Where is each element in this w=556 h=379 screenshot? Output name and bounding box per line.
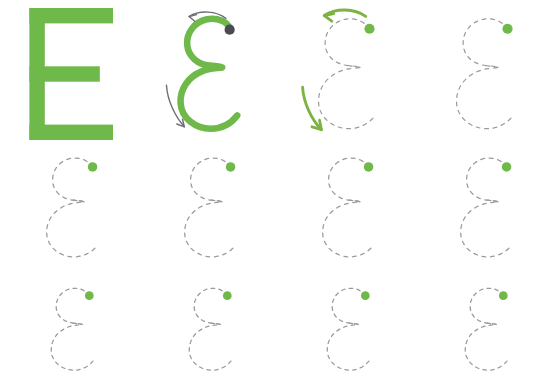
epsilon-join-tick	[487, 323, 496, 324]
epsilon-dashed-path	[319, 19, 376, 129]
cell-row2-practice-2[interactable]	[162, 150, 255, 262]
start-point-dot	[499, 291, 508, 300]
epsilon-stroke-path	[181, 19, 238, 129]
epsilon-dashed-path	[465, 288, 507, 370]
cell-row2-practice-4[interactable]	[438, 150, 531, 262]
start-point-dot	[502, 24, 512, 34]
epsilon-dashed-path	[189, 288, 231, 370]
epsilon-join-tick	[487, 200, 498, 202]
cell-row1-model-letter-stroke	[152, 8, 262, 140]
epsilon-dashed-guide	[310, 283, 384, 373]
epsilon-dashed-path	[323, 158, 374, 257]
cell-row3-practice-4[interactable]	[448, 283, 522, 373]
epsilon-join-tick	[211, 323, 220, 324]
capital-e-shape	[29, 8, 113, 140]
start-point-dot	[88, 162, 98, 172]
epsilon-dashed-guide-arrows	[290, 8, 400, 140]
epsilon-dashed-path	[461, 158, 512, 257]
arrow-top-head	[189, 15, 197, 22]
epsilon-dashed-guide	[438, 150, 531, 262]
start-point-dot	[364, 162, 374, 172]
e-top-bar	[29, 8, 113, 23]
epsilon-dashed-path	[457, 19, 514, 129]
epsilon-dashed-guide	[300, 150, 393, 262]
cell-row1-trace-guide-with-arrows[interactable]	[290, 8, 400, 140]
capital-e-glyph	[14, 8, 124, 140]
start-point-dot	[361, 291, 370, 300]
worksheet-row-3	[0, 283, 556, 375]
cell-row3-practice-2[interactable]	[172, 283, 246, 373]
epsilon-dashed-guide	[34, 283, 108, 373]
cell-row3-practice-3[interactable]	[310, 283, 384, 373]
epsilon-dashed-path	[47, 158, 98, 257]
epsilon-join-tick	[73, 323, 82, 324]
epsilon-join-tick	[73, 200, 84, 202]
start-point-dot	[364, 24, 374, 34]
epsilon-dashed-path	[185, 158, 236, 257]
arrow-top-head	[324, 14, 333, 22]
cell-row2-practice-1[interactable]	[24, 150, 117, 262]
start-point-dot	[85, 291, 94, 300]
e-middle-bar	[29, 66, 99, 81]
start-point-dot	[225, 25, 235, 35]
cell-row3-practice-1[interactable]	[34, 283, 108, 373]
epsilon-dashed-guide	[448, 283, 522, 373]
tracing-worksheet: Letter E Tracing Practice	[0, 0, 556, 379]
cell-row1-trace-guide-plain[interactable]	[428, 8, 538, 140]
epsilon-join-tick	[349, 323, 358, 324]
e-bottom-bar	[29, 125, 113, 140]
worksheet-row-2	[0, 150, 556, 264]
cell-row2-practice-3[interactable]	[300, 150, 393, 262]
arrow-bottom-shaft	[303, 87, 322, 129]
start-point-dot	[502, 162, 512, 172]
epsilon-dashed-path	[51, 288, 93, 370]
epsilon-dashed-guide	[24, 150, 117, 262]
start-point-dot	[223, 291, 232, 300]
cell-row1-model-letter-solid	[14, 8, 124, 140]
epsilon-dashed-path	[327, 288, 369, 370]
epsilon-join-tick	[211, 200, 222, 202]
epsilon-join-tick	[349, 200, 360, 202]
stroke-direction-arrow-bottom	[303, 87, 322, 129]
start-point-dot	[226, 162, 236, 172]
worksheet-row-1	[0, 8, 556, 140]
epsilon-model-glyph	[152, 8, 262, 140]
epsilon-dashed-guide	[162, 150, 255, 262]
epsilon-dashed-guide	[172, 283, 246, 373]
epsilon-dashed-guide	[428, 8, 538, 140]
